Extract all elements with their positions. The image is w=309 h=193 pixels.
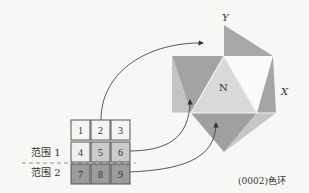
y-axis-label: Y	[222, 12, 230, 23]
center-label: N	[219, 82, 228, 93]
grid-label-6: 6	[118, 147, 123, 158]
range2-label: 范围 2	[31, 166, 61, 178]
number-grid: 1 2 3 4 5 6 7 8 9	[71, 120, 130, 184]
grid-label-4: 4	[78, 147, 83, 158]
x-axis-label: X	[280, 86, 289, 97]
grid-label-2: 2	[98, 125, 103, 136]
range1-label: 范围 1	[31, 146, 61, 158]
grid-label-3: 3	[118, 125, 123, 136]
arrow-range2	[128, 123, 216, 172]
grid-label-1: 1	[78, 125, 83, 136]
color-ring-diagram: Y X N 1 2 3 4 5 6 7 8 9 范围 1 范围 2 (0002)…	[0, 0, 309, 193]
grid-label-5: 5	[98, 147, 103, 158]
grid-label-7: 7	[78, 169, 83, 180]
grid-label-8: 8	[98, 169, 103, 180]
top-triangle	[224, 25, 273, 56]
grid-label-9: 9	[118, 169, 123, 180]
caption: (0002)色环	[238, 175, 286, 186]
